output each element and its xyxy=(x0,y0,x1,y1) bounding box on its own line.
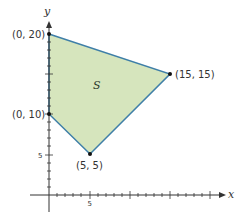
vertex-label: (0, 20) xyxy=(12,29,45,40)
vertex-label: (5, 5) xyxy=(76,160,103,171)
vertex-15-15: (15, 15) xyxy=(168,69,215,80)
vertex-0-20: (0, 20) xyxy=(12,29,51,40)
feasible-region-diagram: 5 x 5 y xyxy=(0,0,238,224)
y-tick-label: 5 xyxy=(38,152,42,160)
vertex-label: (0, 10) xyxy=(12,109,45,120)
vertex-5-5: (5, 5) xyxy=(76,152,103,171)
region-s xyxy=(49,34,170,154)
x-axis-label: x xyxy=(228,188,235,201)
vertex-label: (15, 15) xyxy=(175,69,215,80)
x-axis: 5 x xyxy=(30,188,235,208)
x-tick-label: 5 xyxy=(88,200,92,208)
vertex-0-10: (0, 10) xyxy=(12,109,51,120)
y-axis-label: y xyxy=(43,5,51,18)
region-label: S xyxy=(93,79,101,92)
